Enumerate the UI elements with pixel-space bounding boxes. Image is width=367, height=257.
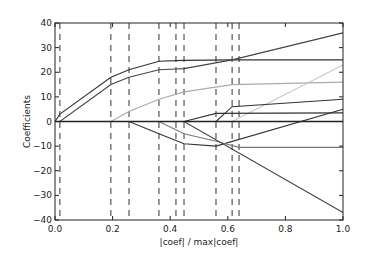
y-tick-label: 0 <box>46 117 52 127</box>
x-tick-label: 1.0 <box>336 224 351 234</box>
x-tick-label: 0.8 <box>278 224 293 234</box>
x-axis-ticks: 0.00.20.40.60.81.0 <box>48 23 351 234</box>
series-coef-5 <box>55 113 343 122</box>
y-tick-label: 30 <box>41 43 53 53</box>
series-coef-7 <box>55 109 343 146</box>
y-tick-label: 40 <box>41 18 53 28</box>
series-coef-2 <box>55 33 343 122</box>
lasso-path-chart: 0.00.20.40.60.81.0 403020100−10−20−30−40… <box>0 0 367 257</box>
y-tick-label: −30 <box>33 190 52 200</box>
y-axis-label: Coefficients <box>22 95 32 148</box>
x-tick-label: 0.4 <box>163 224 178 234</box>
x-axis-label: |coef| / max|coef| <box>160 237 239 247</box>
y-tick-label: −20 <box>33 166 52 176</box>
coefficient-series <box>55 33 343 213</box>
y-tick-label: −40 <box>33 215 52 225</box>
y-tick-label: 10 <box>41 92 53 102</box>
x-tick-label: 0.6 <box>221 224 236 234</box>
series-coef-9 <box>55 122 343 213</box>
y-tick-label: −10 <box>33 141 52 151</box>
y-tick-label: 20 <box>41 67 53 77</box>
series-coef-1 <box>55 60 343 122</box>
x-tick-label: 0.0 <box>48 224 63 234</box>
x-tick-label: 0.2 <box>105 224 119 234</box>
series-coef-8 <box>55 122 343 148</box>
